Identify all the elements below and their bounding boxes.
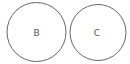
circle-c: C bbox=[70, 5, 126, 61]
circle-b: B bbox=[7, 3, 66, 62]
venn-diagram: B C bbox=[0, 0, 130, 64]
circle-c-label: C bbox=[94, 28, 100, 38]
circle-b-label: B bbox=[33, 28, 39, 38]
